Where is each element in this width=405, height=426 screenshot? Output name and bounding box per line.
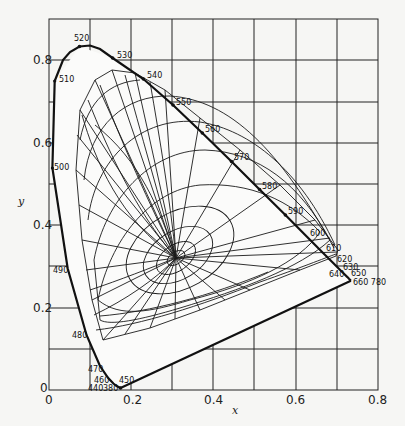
y-axis: 0.8 0.6 0.4 0.2 0 y bbox=[17, 53, 52, 395]
label-540: 540 bbox=[147, 71, 162, 80]
x-axis: 0 0.2 0.4 0.6 0.8 x bbox=[45, 393, 387, 417]
label-450: 450 bbox=[119, 376, 134, 385]
label-490: 490 bbox=[53, 266, 68, 275]
x-tick-0.2: 0.2 bbox=[123, 393, 142, 407]
label-520: 520 bbox=[74, 34, 89, 43]
label-550: 550 bbox=[176, 98, 191, 107]
label-660-780: 660 780 bbox=[353, 278, 386, 287]
label-590: 590 bbox=[288, 207, 303, 216]
x-tick-0.4: 0.4 bbox=[204, 393, 223, 407]
label-440: 440 bbox=[88, 384, 103, 393]
label-650: 650 bbox=[351, 269, 366, 278]
y-tick-0.6: 0.6 bbox=[33, 136, 52, 150]
label-570: 570 bbox=[234, 153, 249, 162]
label-610: 610 bbox=[326, 244, 341, 253]
x-tick-0: 0 bbox=[45, 393, 53, 407]
label-470: 470 bbox=[88, 365, 103, 374]
chromaticity-chart: 520 530 540 550 560 570 580 590 600 610 … bbox=[0, 0, 405, 426]
x-axis-title: x bbox=[232, 404, 239, 417]
label-600: 600 bbox=[310, 229, 325, 238]
label-580: 580 bbox=[262, 182, 277, 191]
y-axis-title: y bbox=[17, 195, 25, 208]
y-tick-0.2: 0.2 bbox=[33, 301, 52, 315]
label-530: 530 bbox=[117, 51, 132, 60]
label-480: 480 bbox=[72, 331, 87, 340]
x-tick-0.8: 0.8 bbox=[368, 393, 387, 407]
label-500: 500 bbox=[54, 163, 69, 172]
label-560: 560 bbox=[205, 125, 220, 134]
y-tick-0.4: 0.4 bbox=[33, 218, 52, 232]
gamut-fill bbox=[52, 47, 351, 389]
y-tick-0.8: 0.8 bbox=[33, 53, 52, 67]
x-tick-0.6: 0.6 bbox=[286, 393, 305, 407]
label-380: 380 bbox=[103, 384, 118, 393]
label-640: 640 bbox=[329, 270, 344, 279]
label-510: 510 bbox=[59, 75, 74, 84]
